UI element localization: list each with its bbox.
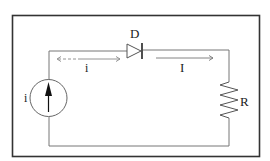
current-I-arrow (156, 56, 213, 61)
circuit-wires (49, 50, 229, 146)
circuit-diagram: i D R i I (0, 0, 270, 161)
resistor (220, 82, 238, 118)
arrow-up-icon (45, 82, 52, 96)
current-I-label: I (180, 60, 184, 75)
diode-label: D (130, 26, 139, 41)
source-label: i (24, 91, 28, 105)
current-source (30, 80, 67, 117)
resistor-label: R (240, 94, 249, 109)
current-i-label: i (85, 61, 89, 75)
diode (127, 43, 142, 59)
current-i-arrows (57, 57, 120, 62)
